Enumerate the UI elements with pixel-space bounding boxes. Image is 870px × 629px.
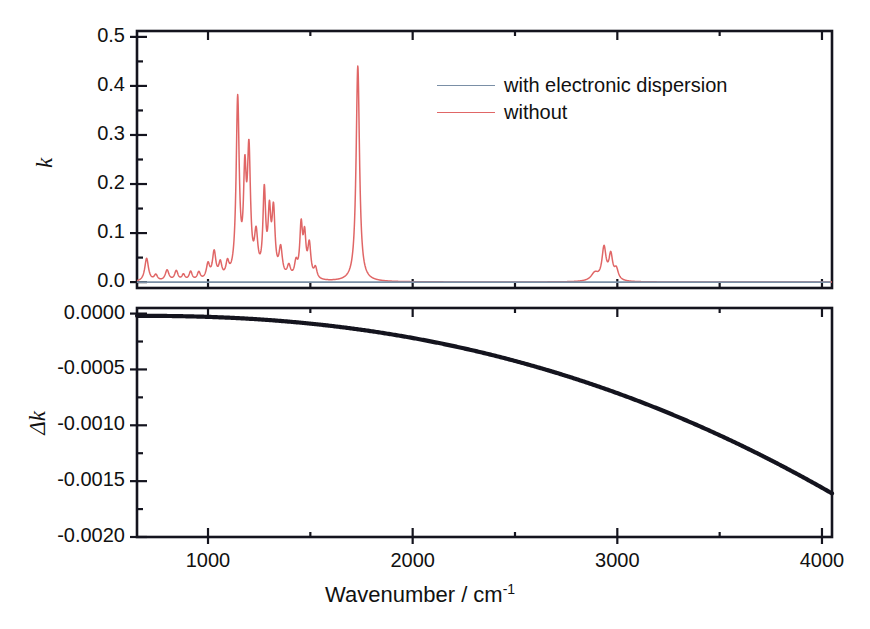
- top-panel-frame: [137, 31, 832, 288]
- legend-line-swatch: [437, 112, 495, 113]
- legend-label: without: [504, 99, 567, 126]
- top-y-tick-label: 0.2: [45, 171, 125, 194]
- legend-entry: without: [437, 99, 727, 126]
- x-tick-label: 2000: [373, 549, 453, 572]
- top-y-tick-label: 0.5: [45, 24, 125, 47]
- delta-k-curve: [137, 316, 832, 494]
- legend-label: with electronic dispersion: [504, 72, 727, 99]
- x-tick-label: 4000: [782, 549, 862, 572]
- bottom-panel-axis-label: Δk: [25, 411, 51, 435]
- legend-entry: with electronic dispersion: [437, 72, 727, 99]
- top-y-tick-label: 0.3: [45, 122, 125, 145]
- legend: with electronic dispersionwithout: [437, 72, 727, 126]
- bottom-y-tick-label: -0.0020: [15, 524, 125, 547]
- x-axis-title: Wavenumber / cm-1: [325, 581, 515, 608]
- bottom-panel-frame: [137, 308, 832, 537]
- top-y-tick-label: 0.1: [45, 220, 125, 243]
- top-y-tick-label: 0.0: [45, 269, 125, 292]
- x-axis-title-text: Wavenumber / cm: [325, 582, 503, 607]
- bottom-y-tick-label: 0.0000: [15, 301, 125, 324]
- legend-line-swatch: [437, 85, 495, 86]
- plot-canvas: [0, 0, 870, 629]
- top-y-tick-label: 0.4: [45, 73, 125, 96]
- bottom-y-tick-label: -0.0015: [15, 468, 125, 491]
- bottom-y-tick-label: -0.0005: [15, 356, 125, 379]
- x-tick-label: 3000: [577, 549, 657, 572]
- figure-root: 0.50.40.30.20.10.0 0.0000-0.0005-0.0010-…: [0, 0, 870, 629]
- x-tick-label: 1000: [168, 549, 248, 572]
- x-axis-title-exponent: -1: [503, 581, 515, 597]
- top-panel-axis-label: k: [32, 158, 58, 168]
